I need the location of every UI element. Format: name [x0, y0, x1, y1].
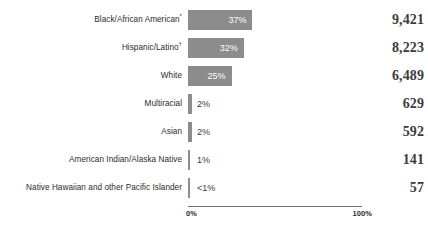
bar	[188, 122, 192, 142]
bar-chart: Black/African American* 37% 9,421 Hispan…	[0, 0, 428, 229]
count-value: 141	[362, 152, 424, 168]
bar	[188, 178, 190, 198]
bar-track: 2%	[188, 90, 362, 118]
count-value: 9,421	[362, 12, 424, 28]
chart-row: Asian 2% 592	[0, 118, 428, 146]
category-label: Multiracial	[0, 99, 182, 108]
footnote-marker: *	[180, 14, 182, 20]
chart-row: Black/African American* 37% 9,421	[0, 6, 428, 34]
chart-row: American Indian/Alaska Native 1% 141	[0, 146, 428, 174]
category-label: American Indian/Alaska Native	[0, 155, 182, 164]
bar-track: 25%	[188, 62, 362, 90]
bar-percent-label: 2%	[197, 94, 210, 114]
bar-percent-label: 25%	[188, 66, 232, 86]
chart-row: White 25% 6,489	[0, 62, 428, 90]
bar-percent-label: 32%	[188, 38, 244, 58]
bar	[188, 94, 192, 114]
bar-track: 32%	[188, 34, 362, 62]
count-value: 629	[362, 96, 424, 112]
bar-percent-label: 37%	[188, 10, 252, 30]
bar-percent-label: 2%	[197, 122, 210, 142]
category-label: Asian	[0, 127, 182, 136]
bar-percent-label: 1%	[197, 150, 210, 170]
x-axis-line	[188, 206, 362, 207]
count-value: 8,223	[362, 40, 424, 56]
chart-row: Native Hawaiian and other Pacific Island…	[0, 174, 428, 202]
category-label: White	[0, 71, 182, 80]
x-axis-tick-0: 0%	[186, 209, 197, 218]
bar-track: <1%	[188, 174, 362, 202]
footnote-marker: †	[179, 42, 182, 48]
bar	[188, 150, 190, 170]
count-value: 592	[362, 124, 424, 140]
category-label: Hispanic/Latino†	[0, 43, 182, 52]
count-value: 57	[362, 180, 424, 196]
category-label: Native Hawaiian and other Pacific Island…	[0, 183, 182, 192]
category-label: Black/African American*	[0, 15, 182, 24]
count-value: 6,489	[362, 68, 424, 84]
bar-track: 1%	[188, 146, 362, 174]
chart-row: Hispanic/Latino† 32% 8,223	[0, 34, 428, 62]
x-axis-tick-100: 100%	[322, 209, 372, 218]
chart-row: Multiracial 2% 629	[0, 90, 428, 118]
bar-track: 2%	[188, 118, 362, 146]
bar-percent-label: <1%	[197, 178, 215, 198]
bar-track: 37%	[188, 6, 362, 34]
